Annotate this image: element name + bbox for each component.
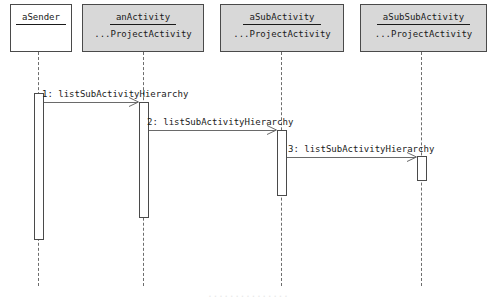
participant-name-2: aSubActivity <box>243 12 320 25</box>
participant-classifier-1: ...ProjectActivity <box>83 29 203 40</box>
participant-box-0[interactable]: aSender <box>10 4 72 52</box>
message-label-0: 1: listSubActivityHierarchy <box>42 89 188 99</box>
activation-bar-0[interactable] <box>34 93 44 240</box>
participant-classifier-2: ...ProjectActivity <box>221 29 343 40</box>
participant-classifier-3: ...ProjectActivity <box>361 29 486 40</box>
activation-bar-2[interactable] <box>277 130 287 196</box>
activation-bar-3[interactable] <box>417 156 427 181</box>
sequence-diagram-canvas: aSenderanActivity...ProjectActivityaSubA… <box>0 0 496 298</box>
participant-name-3: aSubSubActivity <box>377 12 470 25</box>
message-label-2: 3: listSubActivityHierarchy <box>288 144 434 154</box>
message-line-1[interactable] <box>149 130 276 131</box>
message-label-1: 2: listSubActivityHierarchy <box>147 117 293 127</box>
participant-box-3[interactable]: aSubSubActivity...ProjectActivity <box>360 4 487 52</box>
message-line-0[interactable] <box>44 102 138 103</box>
participant-name-0: aSender <box>16 12 66 25</box>
participant-box-2[interactable]: aSubActivity...ProjectActivity <box>220 4 344 52</box>
participant-box-1[interactable]: anActivity...ProjectActivity <box>82 4 204 52</box>
message-line-2[interactable] <box>287 157 416 158</box>
clipped-caption: ............... <box>0 289 496 298</box>
participant-name-1: anActivity <box>110 12 176 25</box>
